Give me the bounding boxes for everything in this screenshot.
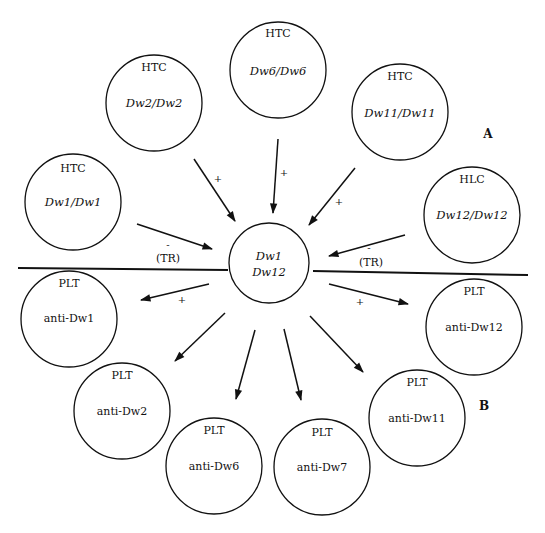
node-plt-anti-dw7: PLT anti-Dw7 [274,419,370,515]
arrow-center-to-anti-dw12 [329,284,408,304]
panel-label-b: B [479,399,489,413]
diagram-canvas: Dw1 Dw12 HTC Dw1/Dw1 HTC Dw2/Dw2 HTC Dw6… [0,0,545,533]
node-type-label: PLT [203,424,225,437]
node-htc-dw11: HTC Dw11/Dw11 [352,64,448,160]
node-specificity-label: anti-Dw1 [44,312,95,325]
arrow-sign-dw1: - [166,239,169,250]
center-label-2: Dw12 [251,265,286,279]
node-plt-anti-dw1: PLT anti-Dw1 [21,271,117,367]
node-htc-dw6: HTC Dw6/Dw6 [230,22,326,118]
node-type-label: PLT [58,277,80,290]
node-specificity-label: anti-Dw6 [189,460,240,473]
divider-left [18,268,228,270]
arrow-sign-dw12: - [367,242,370,253]
node-hlc-dw12: HLC Dw12/Dw12 [424,167,520,263]
arrow-sign-anti-dw12: + [356,296,364,307]
node-type-label: PLT [406,376,428,389]
arrow-center-to-anti-dw11 [310,316,363,372]
arrow-dw2-to-center [194,159,235,221]
arrow-center-to-anti-dw2 [175,313,225,361]
panel-label-a: A [482,127,493,141]
node-plt-anti-dw6: PLT anti-Dw6 [166,418,262,514]
node-type-label: HTC [387,70,412,83]
node-specificity-label: anti-Dw7 [297,461,348,474]
center-node: Dw1 Dw12 [229,223,309,303]
node-genotype-label: Dw12/Dw12 [435,208,507,222]
arrow-center-to-anti-dw1 [141,284,209,300]
arrow-sign-dw2: + [214,173,222,184]
arrow-dw11-to-center [309,168,355,225]
node-htc-dw2: HTC Dw2/Dw2 [106,55,202,151]
divider-right [313,271,528,275]
node-htc-dw1: HTC Dw1/Dw1 [25,154,121,250]
arrow-note-dw1: (TR) [156,252,180,265]
arrow-note-dw12: (TR) [359,256,383,269]
node-type-label: HTC [265,27,290,40]
node-specificity-label: anti-Dw2 [97,405,148,418]
node-plt-anti-dw2: PLT anti-Dw2 [74,363,170,459]
node-type-label: PLT [111,369,133,382]
node-specificity-label: anti-Dw12 [445,321,503,334]
arrow-center-to-anti-dw7 [284,329,301,400]
node-plt-anti-dw11: PLT anti-Dw11 [369,370,465,466]
arrow-center-to-anti-dw6 [236,330,255,399]
center-label-1: Dw1 [255,249,282,263]
arrow-sign-anti-dw1: + [178,294,186,305]
arrow-dw1-to-center [137,224,212,249]
node-specificity-label: anti-Dw11 [388,412,446,425]
node-plt-anti-dw12: PLT anti-Dw12 [426,279,522,375]
node-genotype-label: Dw1/Dw1 [44,195,102,209]
node-type-label: HLC [459,173,484,186]
node-type-label: PLT [311,426,333,439]
node-genotype-label: Dw2/Dw2 [125,96,183,110]
arrow-dw6-to-center [273,139,278,213]
arrow-sign-dw11: + [335,196,343,207]
node-genotype-label: Dw11/Dw11 [363,106,435,120]
node-type-label: HTC [141,61,166,74]
arrow-sign-dw6: + [280,167,288,178]
node-type-label: HTC [60,162,85,175]
node-type-label: PLT [463,285,485,298]
node-genotype-label: Dw6/Dw6 [249,64,307,78]
